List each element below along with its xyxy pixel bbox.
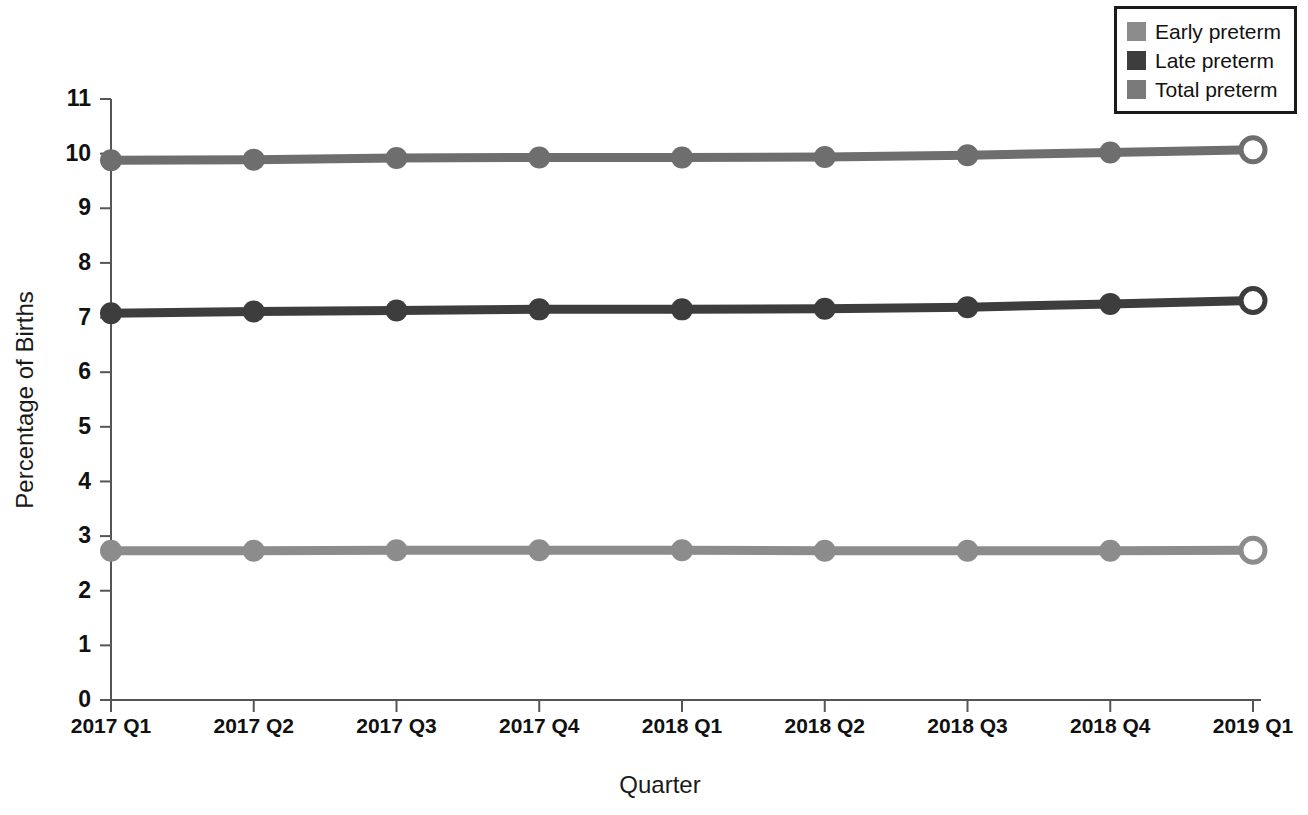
x-axis-title: Quarter — [619, 771, 700, 798]
y-tick-label: 9 — [78, 194, 91, 220]
legend-item-label: Late preterm — [1155, 50, 1274, 71]
data-point-marker-open — [1241, 538, 1265, 562]
legend-item-late-preterm[interactable]: Late preterm — [1127, 46, 1281, 74]
data-point-marker — [243, 540, 265, 562]
data-point-marker — [814, 146, 836, 168]
y-tick-label: 7 — [78, 304, 91, 330]
x-tick-labels: 2017 Q12017 Q22017 Q32017 Q42018 Q12018 … — [71, 714, 1294, 737]
y-tick-label: 0 — [78, 686, 91, 712]
x-tick-label: 2019 Q1 — [1213, 714, 1294, 737]
data-point-marker — [528, 539, 550, 561]
legend-item-label: Total preterm — [1155, 79, 1278, 100]
data-point-marker — [386, 539, 408, 561]
data-point-marker — [814, 540, 836, 562]
y-tick-label: 5 — [78, 413, 91, 439]
y-tick-label: 1 — [78, 631, 91, 657]
data-point-marker — [1099, 293, 1121, 315]
data-point-marker-open — [1241, 138, 1265, 162]
x-tick-label: 2018 Q3 — [927, 714, 1008, 737]
y-tick-label: 10 — [65, 140, 91, 166]
series-total-preterm — [100, 138, 1265, 171]
data-point-marker — [528, 298, 550, 320]
x-tick-label: 2017 Q1 — [71, 714, 152, 737]
data-point-marker — [671, 298, 693, 320]
x-tick-label: 2018 Q4 — [1070, 714, 1151, 737]
data-point-marker — [100, 149, 122, 171]
y-tick-label: 11 — [67, 85, 92, 111]
legend-swatch-icon — [1127, 51, 1146, 70]
y-tick-label: 2 — [78, 577, 91, 603]
ticks-group — [100, 99, 1253, 712]
x-tick-label: 2017 Q4 — [499, 714, 580, 737]
data-point-marker — [957, 540, 979, 562]
series-late-preterm — [100, 289, 1265, 325]
data-point-marker — [386, 299, 408, 321]
y-axis-title: Percentage of Births — [11, 291, 38, 508]
data-point-marker — [1099, 540, 1121, 562]
data-point-marker — [671, 539, 693, 561]
series-early-preterm — [100, 538, 1265, 562]
y-tick-labels: 01234567891011 — [65, 85, 91, 712]
x-tick-label: 2018 Q2 — [784, 714, 865, 737]
line-chart: 01234567891011 2017 Q12017 Q22017 Q32017… — [0, 0, 1308, 815]
data-point-marker — [1099, 142, 1121, 164]
data-point-marker — [957, 144, 979, 166]
legend-swatch-icon — [1127, 22, 1146, 41]
y-tick-label: 8 — [78, 249, 91, 275]
x-tick-label: 2017 Q3 — [356, 714, 437, 737]
data-point-marker — [957, 296, 979, 318]
data-point-marker — [100, 302, 122, 324]
data-point-marker — [100, 540, 122, 562]
data-point-marker-open — [1241, 289, 1265, 313]
y-tick-label: 4 — [78, 468, 91, 494]
data-point-marker — [243, 149, 265, 171]
x-tick-label: 2017 Q2 — [213, 714, 294, 737]
legend-item-early-preterm[interactable]: Early preterm — [1127, 17, 1281, 45]
series-group — [100, 138, 1265, 562]
data-point-marker — [671, 146, 693, 168]
x-tick-label: 2018 Q1 — [642, 714, 723, 737]
plot-area: 01234567891011 2017 Q12017 Q22017 Q32017… — [0, 0, 1308, 815]
legend-swatch-icon — [1127, 80, 1146, 99]
y-tick-label: 6 — [78, 358, 91, 384]
chart-legend: Early pretermLate pretermTotal preterm — [1114, 6, 1297, 114]
data-point-marker — [528, 146, 550, 168]
data-point-marker — [243, 301, 265, 323]
legend-item-label: Early preterm — [1155, 21, 1281, 42]
data-point-marker — [814, 298, 836, 320]
axes-group — [111, 99, 1261, 700]
data-point-marker — [386, 147, 408, 169]
y-tick-label: 3 — [78, 522, 91, 548]
axis-lines — [111, 99, 1261, 700]
legend-item-total-preterm[interactable]: Total preterm — [1127, 75, 1281, 103]
